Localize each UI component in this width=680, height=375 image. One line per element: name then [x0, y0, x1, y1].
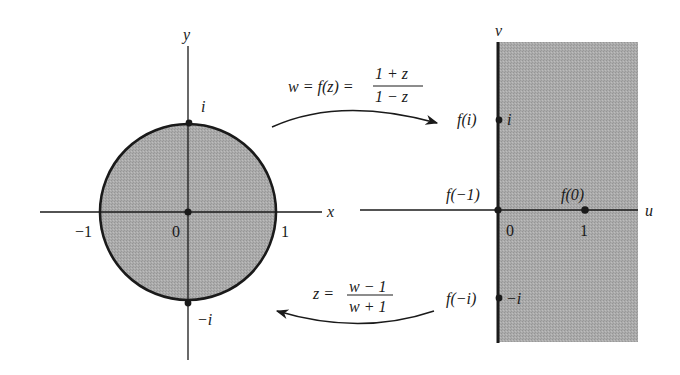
f-neg1-label: f(−1)	[446, 186, 480, 204]
u-axis-label: u	[645, 202, 653, 219]
w-tick-1-label: 1	[580, 222, 588, 239]
f-neg-i-label: f(−i)	[446, 290, 476, 308]
point-i-label: i	[201, 98, 205, 115]
forward-denominator: 1 − z	[375, 88, 409, 105]
forward-lhs: w = f(z) =	[288, 78, 354, 96]
conformal-map-diagram: y x i −i 0 −1 1 w = f(z) = 1 + z 1 − z z…	[0, 0, 680, 375]
point-f-0	[581, 206, 589, 214]
i-label: i	[507, 111, 511, 128]
z-plane: y x i −i 0 −1 1	[40, 26, 334, 360]
point-neg-i	[185, 300, 192, 307]
point-f-neg-i	[496, 295, 503, 302]
origin-point	[184, 208, 191, 215]
y-axis-label: y	[181, 26, 191, 44]
inverse-mapping: z = w − 1 w + 1	[277, 278, 434, 324]
w-origin-label: 0	[506, 222, 514, 239]
inverse-denominator: w + 1	[349, 298, 386, 315]
inverse-numerator: w − 1	[349, 278, 386, 295]
tick-1-label: 1	[281, 223, 289, 240]
origin-label: 0	[172, 223, 180, 240]
f-0-label: f(0)	[561, 186, 584, 204]
point-neg-i-label: −i	[197, 311, 212, 328]
v-axis-label: v	[495, 22, 503, 39]
forward-numerator: 1 + z	[375, 65, 409, 82]
tick-neg-1-label: −1	[75, 223, 92, 240]
forward-arrow	[272, 110, 437, 127]
neg-i-label: −i	[506, 290, 521, 307]
f-i-label: f(i)	[457, 111, 477, 129]
inverse-lhs: z =	[312, 285, 334, 302]
point-i	[186, 120, 193, 127]
point-f-i	[496, 117, 503, 124]
x-axis-label: x	[326, 203, 334, 220]
point-f-neg1	[494, 206, 501, 213]
forward-mapping: w = f(z) = 1 + z 1 − z	[272, 65, 437, 127]
